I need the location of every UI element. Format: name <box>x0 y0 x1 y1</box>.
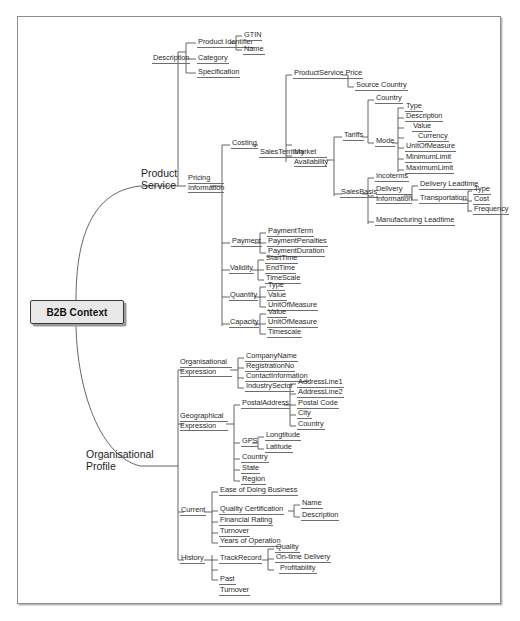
node-payment[interactable]: Payment <box>231 237 262 247</box>
node-postal-address[interactable]: PostalAddress <box>241 399 290 409</box>
node-market-availability[interactable]: Market Availability <box>293 148 328 168</box>
node-manufacturing-leadtime[interactable]: Manufacturing Leadtime <box>375 216 455 226</box>
node-quantity[interactable]: Quantity <box>229 291 258 301</box>
node-industry-sector[interactable]: IndustrySector <box>245 382 294 392</box>
node-turnover-past[interactable]: Turnover <box>219 586 250 596</box>
root-node-b2b-context[interactable]: B2B Context <box>30 300 124 324</box>
node-validity[interactable]: Validity <box>229 264 254 274</box>
node-financial-rating[interactable]: Financial Rating <box>219 516 273 526</box>
node-transportation[interactable]: Transportation <box>419 194 468 204</box>
root-to-product-service <box>76 186 140 300</box>
node-capacity[interactable]: Capacity <box>229 318 259 328</box>
node-certification-name[interactable]: Name <box>301 499 323 509</box>
root-node-label: B2B Context <box>46 307 107 318</box>
node-mode-unitofmeasure[interactable]: UnitOfMeasure <box>405 142 456 152</box>
node-mode-minimumlimit[interactable]: MinimumLimit <box>405 153 452 163</box>
branch-product-service-line1: Product <box>141 168 181 180</box>
branch-product-service[interactable]: Product Service <box>141 168 181 191</box>
node-current[interactable]: Current <box>180 506 206 516</box>
node-history[interactable]: History <box>180 554 205 564</box>
node-organisational-expression[interactable]: Organisational Expression <box>179 358 233 378</box>
node-org-expression-line2: Expression <box>180 368 232 378</box>
node-postal-country[interactable]: Country <box>297 420 325 430</box>
root-to-org-profile <box>76 322 140 466</box>
node-address-line2[interactable]: AddressLine2 <box>297 388 344 398</box>
node-ease-of-doing-business[interactable]: Ease of Doing Business <box>219 486 298 496</box>
node-sales-basis[interactable]: SalesBasis <box>340 188 378 198</box>
node-category[interactable]: Category <box>197 54 229 64</box>
node-certification-description[interactable]: Description <box>301 511 339 521</box>
node-specification[interactable]: Specification <box>197 68 240 78</box>
node-costing[interactable]: Costing <box>231 139 258 149</box>
node-quality-certification[interactable]: Quality Certification <box>219 505 284 515</box>
node-past[interactable]: Past <box>219 575 236 585</box>
node-mode[interactable]: Mode <box>375 137 395 147</box>
node-tariff-country[interactable]: Country <box>375 94 403 104</box>
node-years-of-operation[interactable]: Years of Operation <box>219 537 281 547</box>
node-mode-maximumlimit[interactable]: MaximumLimit <box>405 164 454 174</box>
node-delivery-information-line2: Information <box>376 195 412 205</box>
node-source-country[interactable]: Source Country <box>355 81 408 91</box>
node-region[interactable]: Region <box>241 475 266 485</box>
node-transport-frequency[interactable]: Frequency <box>473 205 509 215</box>
node-delivery-leadtime[interactable]: Delivery Leadtime <box>419 180 479 190</box>
node-delivery-information[interactable]: Delivery Information <box>375 185 413 205</box>
node-latitude[interactable]: Latitude <box>265 443 293 453</box>
node-name-product[interactable]: Name <box>243 45 265 55</box>
node-incoterms[interactable]: Incoterms <box>375 172 409 182</box>
node-capacity-timescale[interactable]: Timescale <box>267 328 302 338</box>
node-tariffs[interactable]: Tariffs <box>343 131 364 141</box>
node-longtitude[interactable]: Longtitude <box>265 431 301 441</box>
node-description[interactable]: Description <box>152 54 190 64</box>
diagram-canvas: B2B Context Product Service Organisation… <box>0 0 520 621</box>
branch-org-profile-line1: Organisational <box>86 449 148 461</box>
node-geo-expression-line2: Expression <box>180 422 228 432</box>
node-geo-country[interactable]: Country <box>241 453 269 463</box>
branch-org-profile-line2: Profile <box>86 461 148 473</box>
node-pricing-information-line2: Information <box>188 184 224 194</box>
node-market-availability-line2: Availability <box>294 158 327 168</box>
node-pricing-information[interactable]: Pricing Information <box>187 174 225 194</box>
branch-product-service-line2: Service <box>141 180 181 192</box>
node-geographical-expression[interactable]: Geographical Expression <box>179 412 229 432</box>
node-city[interactable]: City <box>297 409 312 419</box>
node-on-time-delivery[interactable]: On-time Delivery <box>275 553 331 563</box>
node-state[interactable]: State <box>241 464 260 474</box>
branch-organisational-profile[interactable]: Organisational Profile <box>86 449 148 472</box>
node-profitability[interactable]: Profitability <box>279 564 317 574</box>
node-productservice-price[interactable]: ProductService Price <box>293 69 363 79</box>
node-track-record[interactable]: TrackRecord <box>219 554 262 564</box>
node-gps[interactable]: GPS <box>241 437 258 447</box>
node-gtin[interactable]: GTIN <box>243 31 262 41</box>
